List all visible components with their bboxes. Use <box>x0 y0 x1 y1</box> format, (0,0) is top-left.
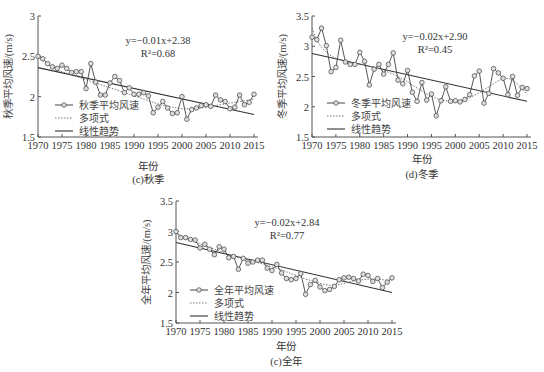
data-point-marker <box>343 60 348 65</box>
data-point-marker <box>204 102 209 107</box>
data-point-marker <box>439 98 444 103</box>
data-point-marker <box>175 111 180 116</box>
x-tick-label: 1990 <box>124 140 145 151</box>
data-point-marker <box>381 72 386 77</box>
data-point-marker <box>165 106 170 111</box>
x-tick-label: 2000 <box>445 140 466 151</box>
data-point-marker <box>506 92 511 97</box>
x-tick-label: 2005 <box>469 140 490 151</box>
data-point-marker <box>338 38 343 43</box>
data-point-marker <box>385 280 390 285</box>
data-point-marker <box>486 91 491 96</box>
y-axis-title: 全年平均风速/(m/s) <box>140 219 153 305</box>
legend-series-label: 全年平均风速 <box>214 284 274 296</box>
data-point-marker <box>515 93 520 98</box>
legend-series-label: 冬季平均风速 <box>351 97 411 109</box>
x-tick-label: 1975 <box>190 326 211 337</box>
r-squared: R²=0.77 <box>270 230 304 241</box>
data-point-marker <box>284 276 289 281</box>
data-point-marker <box>405 68 410 73</box>
panel-caption: (c)秋季 <box>132 173 165 186</box>
data-point-marker <box>36 54 41 59</box>
legend-trend-label: 线性趋势 <box>214 310 254 322</box>
data-point-marker <box>308 282 313 287</box>
data-point-marker <box>194 106 199 111</box>
data-point-marker <box>151 111 156 116</box>
data-point-marker <box>218 98 223 103</box>
data-point-marker <box>390 276 395 281</box>
x-tick-label: 2000 <box>172 140 193 151</box>
data-point-marker <box>420 80 425 85</box>
data-point-marker <box>448 99 453 104</box>
y-tick-label: 3.5 <box>296 11 309 22</box>
data-point-marker <box>366 273 371 278</box>
x-tick-label: 2010 <box>493 140 514 151</box>
data-point-marker <box>199 103 204 108</box>
data-point-marker <box>332 284 337 289</box>
data-point-marker <box>79 69 84 74</box>
data-point-marker <box>319 26 324 31</box>
data-point-marker <box>356 279 361 284</box>
data-point-marker <box>170 111 175 116</box>
data-point-marker <box>463 97 468 102</box>
regression-equation: y=−0.02x+2.84 <box>254 217 320 228</box>
data-point-marker <box>303 292 308 297</box>
chart-winter: 3.532.521.519701975198019851990199520002… <box>276 11 538 181</box>
data-point-marker <box>156 105 161 110</box>
x-tick-label: 1995 <box>286 326 307 337</box>
legend-poly-label: 多项式 <box>79 112 109 124</box>
x-tick-label: 1985 <box>238 326 259 337</box>
data-point-marker <box>117 78 122 83</box>
data-point-marker <box>318 285 323 290</box>
data-point-marker <box>93 80 98 85</box>
data-point-marker <box>400 81 405 86</box>
legend: 全年平均风速多项式线性趋势 <box>190 284 274 322</box>
x-tick-label: 1970 <box>166 326 187 337</box>
data-point-marker <box>233 105 238 110</box>
data-point-marker <box>348 62 353 67</box>
data-point-marker <box>242 102 247 107</box>
data-point-marker <box>55 66 60 71</box>
data-point-marker <box>327 287 332 292</box>
x-tick-label: 1985 <box>100 140 121 151</box>
data-point-marker <box>362 59 367 64</box>
data-point-marker <box>60 63 65 68</box>
data-point-marker <box>375 276 380 281</box>
x-axis-title: 年份 <box>412 153 433 165</box>
data-point-marker <box>41 56 46 61</box>
data-point-marker <box>265 266 270 271</box>
x-tick-label: 1995 <box>148 140 169 151</box>
data-point-marker <box>174 229 179 234</box>
data-point-marker <box>453 98 458 103</box>
data-point-marker <box>324 43 329 48</box>
data-point-marker <box>458 100 463 105</box>
data-point-marker <box>443 84 448 89</box>
data-point-marker <box>103 93 108 98</box>
data-point-marker <box>141 90 146 95</box>
data-point-marker <box>334 65 339 70</box>
data-point-marker <box>501 76 506 81</box>
data-point-marker <box>294 276 299 281</box>
r-squared: R²=0.45 <box>418 44 452 55</box>
legend-trend-label: 线性趋势 <box>79 125 119 137</box>
data-point-marker <box>270 268 275 273</box>
x-tick-label: 1985 <box>373 140 394 151</box>
chart-autumn: 32.521.519701975198019851990199520002005… <box>2 11 265 186</box>
data-point-marker <box>223 99 228 104</box>
data-point-marker <box>467 92 472 97</box>
data-point-marker <box>386 62 391 67</box>
data-point-marker <box>510 74 515 79</box>
x-tick-label: 1970 <box>28 140 49 151</box>
data-point-marker <box>299 271 304 276</box>
x-tick-label: 2010 <box>220 140 241 151</box>
data-point-marker <box>236 267 241 272</box>
legend: 秋季平均风速多项式线性趋势 <box>55 99 139 137</box>
x-tick-label: 2005 <box>334 326 355 337</box>
y-tick-label: 2.5 <box>22 51 35 62</box>
data-point-marker <box>367 83 372 88</box>
data-point-marker <box>203 242 208 247</box>
figure-canvas: 32.521.519701975198019851990199520002005… <box>0 0 544 372</box>
x-axis-title: 年份 <box>138 160 159 172</box>
x-tick-label: 1970 <box>302 140 323 151</box>
data-point-marker <box>65 66 70 71</box>
